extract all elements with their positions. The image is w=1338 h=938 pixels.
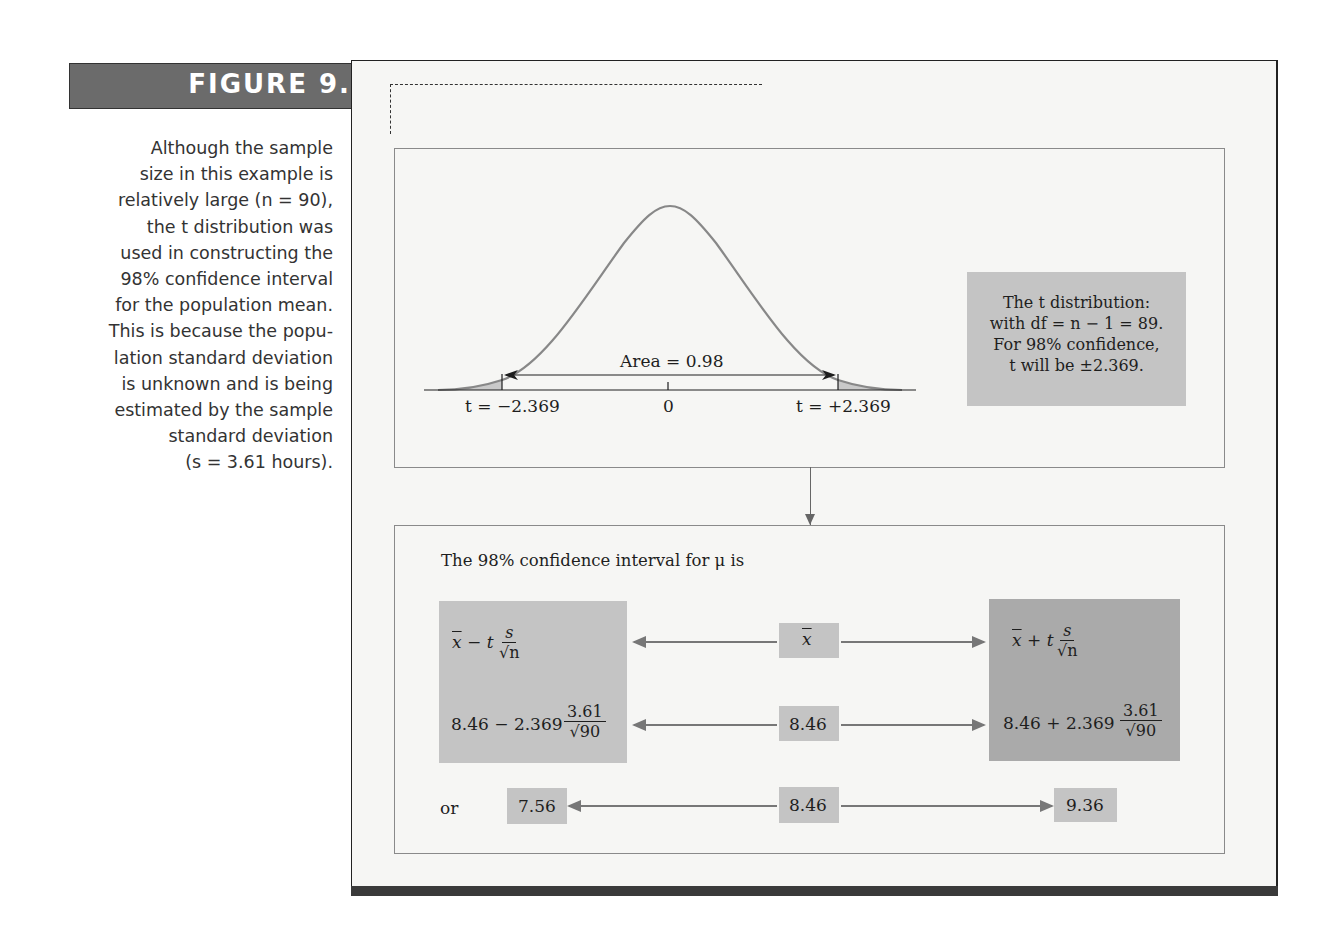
caption-line: lation standard deviation bbox=[60, 345, 333, 371]
caption-line: used in constructing the bbox=[60, 240, 333, 266]
figure-label: FIGURE 9.6 bbox=[188, 69, 371, 99]
area-label: Area = 0.98 bbox=[620, 351, 724, 371]
caption-line: size in this example is bbox=[60, 161, 333, 187]
figure-caption: Although the sample size in this example… bbox=[60, 135, 333, 476]
mean-formula: x bbox=[802, 629, 812, 649]
left-critical-label: t = −2.369 bbox=[465, 396, 560, 416]
arrow-right-icon bbox=[841, 724, 984, 726]
arrow-down-icon bbox=[805, 514, 815, 525]
arrow-left-icon bbox=[634, 641, 777, 643]
caption-line: the t distribution was bbox=[60, 214, 333, 240]
caption-line: for the population mean. bbox=[60, 292, 333, 318]
lower-substituted-fraction: 3.61 √90 bbox=[564, 703, 606, 741]
caption-line: estimated by the sample bbox=[60, 397, 333, 423]
info-line: For 98% confidence, bbox=[967, 334, 1186, 355]
arrow-right-icon bbox=[841, 641, 984, 643]
dashed-leader-horizontal bbox=[390, 84, 762, 85]
center-label: 0 bbox=[663, 396, 674, 416]
or-label: or bbox=[440, 798, 458, 818]
lower-substituted: 8.46 − 2.369 bbox=[451, 714, 563, 734]
arrow-left-icon bbox=[569, 805, 777, 807]
info-line: The t distribution: bbox=[967, 292, 1186, 313]
mean-result: 8.46 bbox=[789, 795, 827, 815]
upper-substituted: 8.46 + 2.369 bbox=[1003, 713, 1115, 733]
caption-line: relatively large (n = 90), bbox=[60, 187, 333, 213]
upper-substituted-fraction: 3.61 √90 bbox=[1120, 702, 1162, 740]
caption-line: is unknown and is being bbox=[60, 371, 333, 397]
lower-formula-fraction: s √n bbox=[499, 624, 520, 662]
upper-formula-fraction: s √n bbox=[1057, 622, 1078, 660]
mean-substituted: 8.46 bbox=[789, 714, 827, 734]
caption-line: (s = 3.61 hours). bbox=[60, 449, 333, 475]
arrow-right-icon bbox=[841, 805, 1052, 807]
info-line: t will be ±2.369. bbox=[967, 355, 1186, 376]
caption-line: 98% confidence interval bbox=[60, 266, 333, 292]
panel-bottom-bar bbox=[351, 886, 1278, 896]
upper-formula: x + t bbox=[1012, 630, 1054, 650]
dashed-leader-vertical bbox=[390, 84, 391, 134]
right-critical-label: t = +2.369 bbox=[796, 396, 891, 416]
t-distribution-info-box: The t distribution: with df = n − 1 = 89… bbox=[967, 272, 1186, 406]
arrow-left-icon bbox=[634, 724, 777, 726]
lower-result: 7.56 bbox=[518, 796, 556, 816]
interval-heading: The 98% confidence interval for μ is bbox=[441, 551, 744, 570]
lower-formula: x − t bbox=[452, 632, 494, 652]
caption-line: standard deviation bbox=[60, 423, 333, 449]
caption-line: This is because the popu- bbox=[60, 318, 333, 344]
upper-result: 9.36 bbox=[1066, 795, 1104, 815]
info-line: with df = n − 1 = 89. bbox=[967, 313, 1186, 334]
caption-line: Although the sample bbox=[60, 135, 333, 161]
